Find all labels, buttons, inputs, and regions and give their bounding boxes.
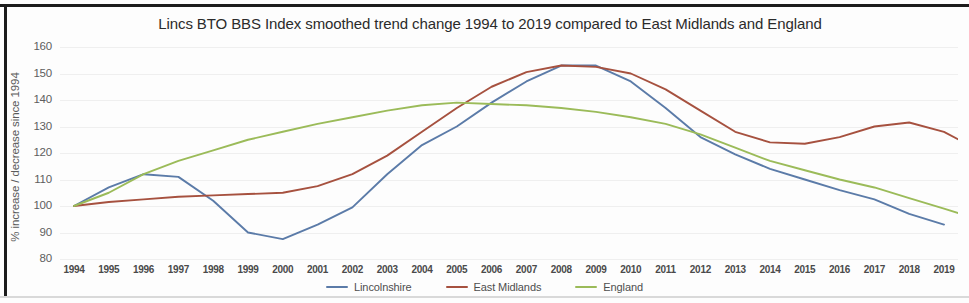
y-axis-tick-label: 150 — [18, 67, 52, 79]
chart-figure: Lincs BTO BBS Index smoothed trend chang… — [0, 0, 969, 303]
legend-label: East Midlands — [474, 281, 542, 293]
chart-legend: LincolnshireEast MidlandsEngland — [0, 281, 969, 293]
series-line — [74, 103, 958, 220]
legend-swatch-icon — [446, 286, 468, 288]
legend-item[interactable]: East Midlands — [446, 281, 542, 293]
y-axis-tick-label: 110 — [18, 173, 52, 185]
y-axis-tick-label: 160 — [18, 40, 52, 52]
y-axis-tick-label: 90 — [18, 226, 52, 238]
legend-label: England — [603, 281, 643, 293]
plot-area — [60, 47, 958, 259]
y-axis-tick-label: 100 — [18, 199, 52, 211]
series-lines — [60, 47, 958, 259]
y-axis-title: % increase / decrease since 1994 — [9, 0, 21, 62]
legend-item[interactable]: England — [575, 281, 643, 293]
page-border-top — [0, 4, 969, 7]
legend-swatch-icon — [326, 286, 348, 288]
gridline — [60, 259, 958, 260]
page-border-bottom — [0, 296, 969, 298]
y-axis-tick-label: 130 — [18, 120, 52, 132]
chart-title: Lincs BTO BBS Index smoothed trend chang… — [80, 15, 900, 32]
legend-item[interactable]: Lincolnshire — [326, 281, 412, 293]
y-axis-tick-label: 120 — [18, 146, 52, 158]
x-axis-tick-label: 2019 — [924, 264, 964, 275]
page-border-left — [4, 4, 7, 296]
legend-swatch-icon — [575, 286, 597, 288]
y-axis-tick-label: 80 — [18, 252, 52, 264]
y-axis-tick-label: 140 — [18, 93, 52, 105]
legend-label: Lincolnshire — [354, 281, 412, 293]
